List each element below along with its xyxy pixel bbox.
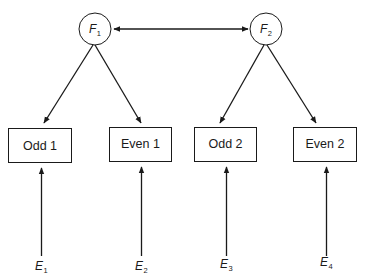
error-label-e3: E3 [220, 257, 233, 273]
indicator-box-odd2: Odd 2 [195, 128, 257, 162]
factor-model-diagram: F1 F2 Odd 1 Even 1 Odd 2 Even 2 E1 E2 E3… [0, 0, 368, 279]
indicator-label-even2: Even 2 [306, 137, 345, 151]
factor-node-f2: F2 [250, 13, 282, 45]
loading-arrow-f2-even2 [267, 45, 316, 123]
indicator-label-odd2: Odd 2 [208, 137, 242, 151]
indicator-label-odd1: Odd 1 [23, 139, 57, 153]
indicator-label-even1: Even 1 [121, 137, 160, 151]
loading-arrow-f1-odd1 [44, 45, 93, 123]
indicator-box-even1: Even 1 [110, 128, 172, 162]
error-label-e4: E4 [320, 255, 333, 271]
error-label-e1: E1 [35, 259, 48, 275]
indicator-box-even2: Even 2 [294, 128, 357, 162]
error-label-e2: E2 [135, 259, 148, 275]
loading-arrow-f1-even1 [95, 45, 141, 123]
factor-node-f1: F1 [79, 13, 111, 45]
indicator-box-odd1: Odd 1 [9, 129, 72, 163]
loading-arrow-f2-odd2 [220, 45, 264, 123]
